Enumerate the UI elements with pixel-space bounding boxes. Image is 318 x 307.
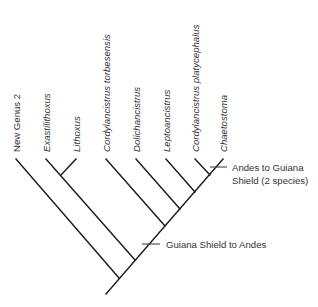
taxon-label-exastilithoxus: Exastilithoxus: [41, 93, 52, 152]
taxon-label-lithoxus: Lithoxus: [71, 116, 82, 152]
branch-cordylancistrus-platycephalus: [195, 159, 210, 175]
taxon-label-leptoancistrus: Leptoancistrus: [161, 89, 172, 152]
taxon-label-dolichancistrus: Dolichancistrus: [131, 87, 142, 152]
taxon-label-chaetostoma: Chaetostoma: [218, 95, 229, 152]
taxon-label-cordylancistrus-torbesensis: Cordylancistrus torbesensis: [101, 34, 112, 152]
annotation-guiana-to-andes: Guiana Shield to Andes: [166, 239, 266, 250]
branch-cordylancistrus-torbesensis: [106, 159, 165, 226]
branch-leptoancistrus: [166, 159, 195, 192]
annotation-andes-to-guiana-line1: Andes to Guiana: [232, 162, 304, 173]
annotation-andes-to-guiana-line2: Shield (2 species): [232, 175, 308, 186]
taxon-label-new-genus-2: New Genus 2: [11, 94, 22, 152]
branch-lithoxus: [61, 159, 76, 175]
taxon-label-cordylancistrus-platycephalus: Cordylancistrus platycephalus: [190, 24, 201, 152]
branch-new-genus-2: [16, 159, 119, 278]
cladogram: New Genus 2 Exastilithoxus Lithoxus Cord…: [0, 0, 318, 307]
